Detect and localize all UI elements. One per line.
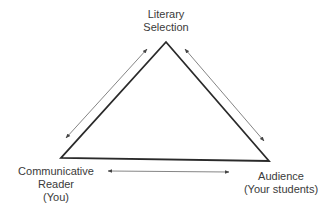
node-label-line: (You) <box>6 191 106 204</box>
node-label-line: Literary <box>116 8 216 21</box>
node-label-line: Reader <box>6 178 106 191</box>
node-label-line: (Your students) <box>236 183 326 196</box>
node-communicative-reader: Communicative Reader (You) <box>6 165 106 204</box>
node-label-line: Communicative <box>6 165 106 178</box>
triangle-shape <box>61 42 269 161</box>
node-audience: Audience (Your students) <box>236 170 326 196</box>
arrow-reader-selection <box>66 49 147 138</box>
node-literary-selection: Literary Selection <box>116 8 216 34</box>
node-label-line: Audience <box>236 170 326 183</box>
arrow-reader-audience <box>108 171 229 172</box>
node-label-line: Selection <box>116 21 216 34</box>
arrow-selection-audience <box>185 49 264 141</box>
